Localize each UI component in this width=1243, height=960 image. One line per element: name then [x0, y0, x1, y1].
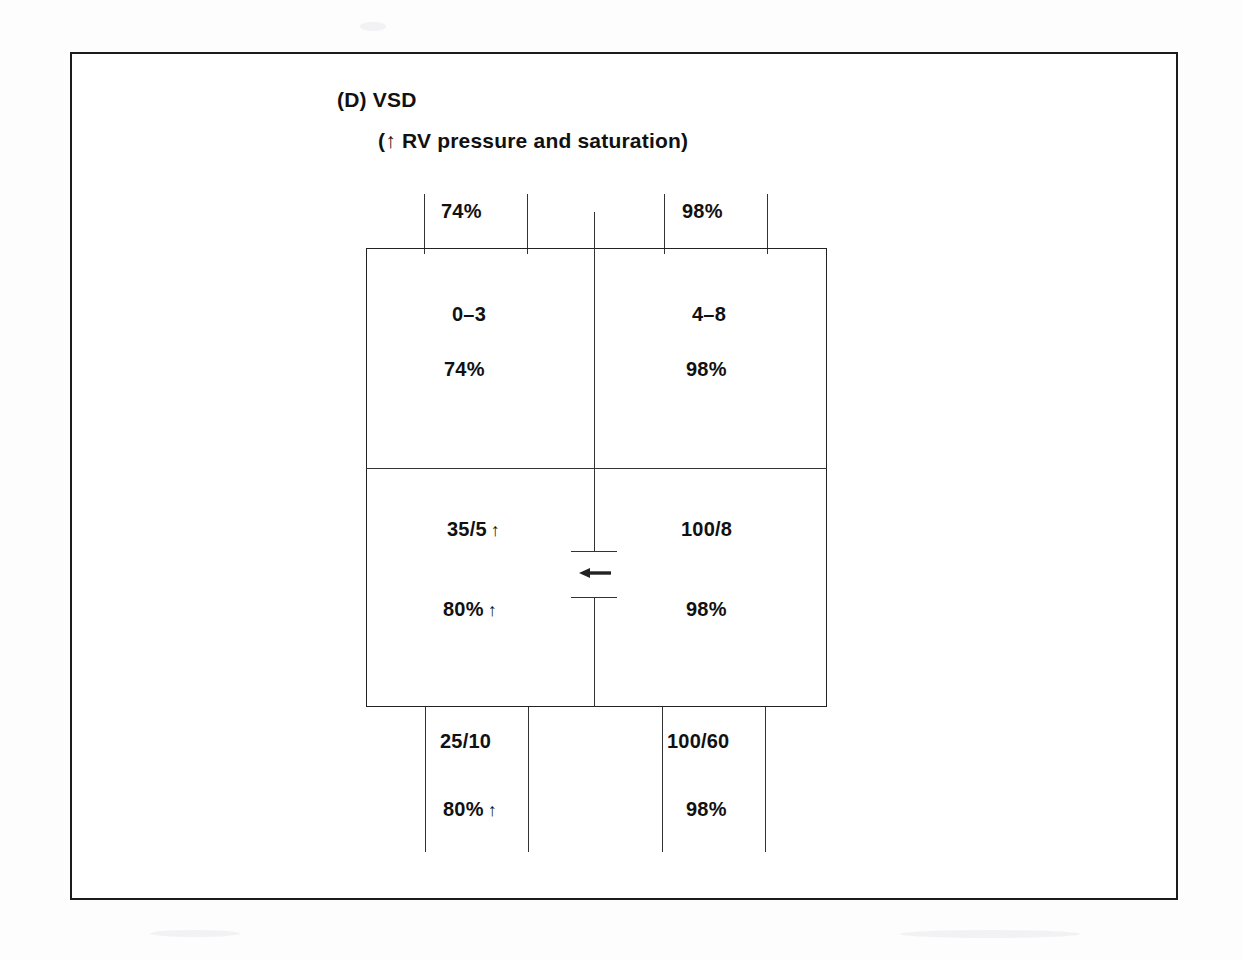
pulmonary-artery-line-right	[528, 707, 529, 852]
interventricular-septum-lower	[594, 597, 595, 707]
pulmonary-venous-saturation: 98%	[682, 200, 723, 223]
right-ventricle-pressure-arrow-icon: ↑	[487, 520, 500, 540]
scan-artifact	[150, 930, 240, 937]
vsd-defect-upper-margin	[571, 551, 617, 552]
figure-page: (D) VSD (↑ RV pressure and saturation) 7…	[0, 0, 1243, 960]
heart-outline	[366, 248, 827, 707]
pulmonary-artery-line-left	[425, 707, 426, 852]
aorta-line-right	[765, 707, 766, 852]
left-ventricle-pressure: 100/8	[681, 518, 732, 541]
systemic-venous-saturation: 74%	[441, 200, 482, 223]
pulmonary-artery-saturation: 80%↑	[443, 798, 497, 821]
pulmonary-venous-line-left	[664, 194, 665, 254]
aorta-pressure: 100/60	[667, 730, 729, 753]
pulmonary-artery-saturation-arrow-icon: ↑	[484, 800, 497, 820]
right-atrium-pressure: 0–3	[452, 303, 486, 326]
figure-subtitle: (↑ RV pressure and saturation)	[378, 129, 688, 153]
systemic-venous-line-right	[527, 194, 528, 254]
right-atrium-saturation: 74%	[444, 358, 485, 381]
right-ventricle-saturation: 80%↑	[443, 598, 497, 621]
systemic-venous-line-left	[424, 194, 425, 254]
left-atrium-pressure: 4–8	[692, 303, 726, 326]
scan-artifact	[360, 22, 386, 31]
right-ventricle-saturation-arrow-icon: ↑	[484, 600, 497, 620]
interventricular-septum-upper	[594, 468, 595, 551]
aorta-line-left	[662, 707, 663, 852]
pulmonary-artery-pressure: 25/10	[440, 730, 491, 753]
scan-artifact	[900, 930, 1080, 938]
vsd-defect-lower-margin	[571, 597, 617, 598]
right-ventricle-pressure-value: 35/5	[447, 518, 487, 540]
figure-label: (D) VSD	[337, 88, 417, 112]
aorta-saturation: 98%	[686, 798, 727, 821]
pulmonary-venous-line-right	[767, 194, 768, 254]
right-ventricle-pressure: 35/5↑	[447, 518, 500, 541]
left-to-right-shunt-arrow	[578, 563, 612, 583]
interatrial-septum	[594, 248, 595, 468]
atrioventricular-divider	[366, 468, 827, 469]
right-ventricle-saturation-value: 80%	[443, 598, 484, 620]
left-atrium-saturation: 98%	[686, 358, 727, 381]
pulmonary-artery-saturation-value: 80%	[443, 798, 484, 820]
left-ventricle-saturation: 98%	[686, 598, 727, 621]
caval-inflow-line	[594, 212, 595, 248]
